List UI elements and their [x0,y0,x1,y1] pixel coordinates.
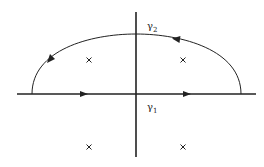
arrow-right-icon [183,91,191,97]
cross-icon [181,58,186,63]
gamma1-label: γ1 [147,102,157,115]
gamma2-label: γ2 [147,21,157,34]
cross-icon [87,145,92,150]
contour-diagram: γ2 γ1 [0,0,264,167]
gamma1-subscript: 1 [153,107,157,115]
arrow-left-icon [172,35,181,43]
cross-icon [87,58,92,63]
gamma2-subscript: 2 [153,26,157,34]
arrow-right-icon [80,91,88,97]
diagram-graphics [0,0,264,167]
cross-icon [181,145,186,150]
